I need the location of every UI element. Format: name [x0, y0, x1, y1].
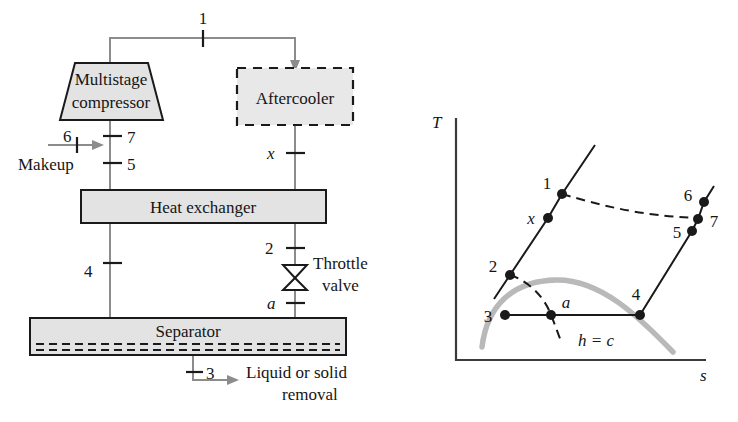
multistage-compressor: Multistage compressor [60, 63, 163, 120]
throttle-valve-label-line1: Throttle [313, 254, 368, 273]
throttle-valve-upper-triangle [283, 265, 307, 278]
stream-label-5: 5 [127, 155, 136, 174]
constant-pressure-line-1-7 [562, 194, 698, 218]
state-label-4: 4 [632, 285, 641, 304]
heat-exchanger: Heat exchanger [81, 190, 326, 223]
state-label-6: 6 [684, 186, 693, 205]
ts-diagram: T s 1 x 2 3 [432, 113, 719, 385]
compressor-label-line1: Multistage [75, 70, 148, 89]
stream-label-3: 3 [206, 364, 215, 383]
aftercooler-label: Aftercooler [256, 89, 335, 108]
removal-label-line1: Liquid or solid [246, 363, 348, 382]
stream-label-4: 4 [84, 262, 93, 281]
enthalpy-annotation: h = c [578, 331, 614, 350]
figure-canvas: Multistage compressor Aftercooler Heat e… [0, 0, 738, 422]
liquefaction-figure: Multistage compressor Aftercooler Heat e… [0, 0, 738, 422]
stream-label-x: x [266, 144, 275, 163]
x-axis-label: s [700, 366, 707, 385]
stream-label-1: 1 [199, 9, 208, 28]
heat-exchanger-label: Heat exchanger [150, 198, 257, 217]
makeup-label: Makeup [18, 155, 74, 174]
stream-label-a: a [267, 294, 276, 313]
stream-label-7: 7 [127, 128, 136, 147]
state-label-3: 3 [484, 307, 493, 326]
state-point-1 [557, 189, 567, 199]
state-label-2: 2 [489, 257, 498, 276]
separator: Separator [30, 318, 346, 355]
stream-label-6: 6 [63, 127, 72, 146]
state-point-labels: 1 x 2 3 a 4 5 6 7 [484, 174, 719, 326]
state-point-6 [699, 197, 709, 207]
state-label-1: 1 [543, 174, 552, 193]
state-label-7: 7 [710, 212, 719, 231]
y-axis-label: T [432, 113, 443, 132]
ts-axes [455, 118, 706, 361]
state-label-a: a [562, 293, 571, 312]
arrowhead-makeup [92, 140, 104, 150]
stream-label-2: 2 [265, 239, 274, 258]
state-point-2 [505, 270, 515, 280]
removal-label-line2: removal [282, 385, 338, 404]
state-point-4 [635, 310, 645, 320]
state-point-5 [687, 226, 697, 236]
throttle-valve-lower-triangle [283, 278, 307, 290]
state-label-5: 5 [673, 223, 682, 242]
separator-label: Separator [155, 322, 220, 341]
arrowhead-removal [227, 375, 239, 385]
state-point-a [546, 310, 556, 320]
state-point-3 [500, 310, 510, 320]
state-label-x: x [526, 209, 535, 228]
aftercooler: Aftercooler [237, 68, 353, 125]
throttle-valve-label-line2: valve [322, 276, 359, 295]
state-point-7 [693, 214, 703, 224]
process-schematic: Multistage compressor Aftercooler Heat e… [18, 9, 368, 404]
state-point-x [543, 213, 553, 223]
compressor-label-line2: compressor [72, 93, 151, 112]
